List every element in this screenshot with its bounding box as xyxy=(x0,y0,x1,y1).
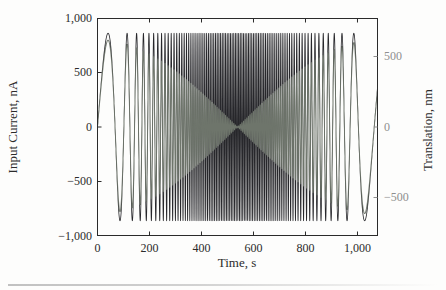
x-tick-label: 600 xyxy=(231,241,275,256)
x-tick-label: 200 xyxy=(127,241,171,256)
scan-artifact-line xyxy=(8,284,438,286)
y-right-tick-label: 500 xyxy=(384,49,434,64)
y-left-tick-label: −1,000 xyxy=(39,229,92,244)
plot-area-canvas xyxy=(97,18,378,236)
x-axis-title: Time, s xyxy=(218,255,257,271)
y-left-tick-label: 500 xyxy=(39,65,92,80)
x-tick-label: 400 xyxy=(179,241,223,256)
y-left-tick-label: −500 xyxy=(39,174,92,189)
x-tick-label: 1,000 xyxy=(335,241,379,256)
figure-scanned-chart: 02004006008001,000 1,0005000−500−1,000 5… xyxy=(0,0,446,290)
y-left-tick-label: 1,000 xyxy=(39,11,92,26)
y-left-tick-label: 0 xyxy=(39,120,92,135)
x-tick-label: 800 xyxy=(283,241,327,256)
y-right-tick-label: −500 xyxy=(384,190,434,205)
y-right-axis-title: Translation, nm xyxy=(420,89,436,171)
y-left-axis-title: Input Current, nA xyxy=(5,81,21,174)
